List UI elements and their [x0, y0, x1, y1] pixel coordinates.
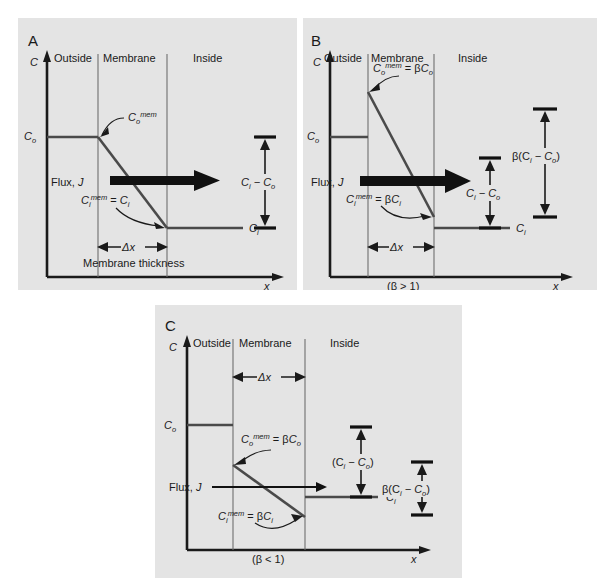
panel-b-letter: B	[311, 32, 321, 49]
co-mem-arrowhead	[369, 83, 380, 92]
flux-arrow-body	[360, 176, 446, 186]
bracket-a-arrow-down	[260, 215, 270, 226]
region-membrane-label: Membrane	[239, 337, 292, 349]
region-outside-label: Outside	[324, 52, 362, 64]
flux-label: Flux, J	[311, 176, 344, 188]
bracket-a-arrow-up	[260, 139, 270, 150]
region-inside-label: Inside	[193, 52, 222, 64]
ci-mem-leader-line	[381, 206, 425, 218]
y-axis-label: C	[169, 341, 177, 353]
ci-mem-arrowhead	[420, 213, 432, 220]
region-inside-label: Inside	[330, 337, 359, 349]
ci-mem-label: Cimem = βCi	[346, 192, 401, 208]
x-axis-arrowhead	[561, 273, 573, 281]
x-axis-label: x	[263, 280, 270, 290]
region-inside-label: Inside	[458, 52, 487, 64]
membrane-thickness-caption: Membrane thickness	[83, 257, 185, 269]
bracket-c2-arrow-down	[417, 502, 427, 513]
panel-c-letter: C	[165, 317, 176, 334]
bracket-b2-arrow-down	[540, 204, 550, 215]
flux-label: Flux, J	[169, 481, 202, 493]
x-axis-label: x	[552, 280, 559, 290]
delta-x-arrow-right	[424, 242, 435, 252]
y-axis-label: C	[30, 56, 38, 68]
panel-a-letter: A	[28, 32, 38, 49]
co-mem-label: Comem = βCo	[241, 432, 301, 448]
delta-x-label: Δx	[121, 241, 135, 253]
x-axis-arrowhead	[419, 546, 431, 554]
bracket-c2-arrow-up	[417, 464, 427, 475]
delta-x-label: Δx	[389, 241, 403, 253]
delta-x-arrow-left	[97, 242, 108, 252]
ci-mem-label: Cimem = Ci	[81, 193, 130, 209]
c-out-axis-label: Co	[307, 130, 319, 145]
y-axis-label: C	[313, 56, 321, 68]
y-axis-arrowhead	[43, 50, 51, 62]
panel-a: A C x Outside Membrane Inside Co Ci Come…	[18, 18, 297, 290]
flux-label: Flux, J	[51, 176, 84, 188]
ci-mem-label: Cimem = βCi	[218, 509, 273, 525]
flux-arrow-body	[110, 176, 196, 185]
c-out-axis-label: Co	[164, 419, 176, 434]
bracket-b1-arrow-down	[485, 215, 495, 226]
co-mem-leader-line	[243, 450, 271, 460]
y-axis-arrowhead	[183, 335, 191, 347]
bracket-c1-arrow-down	[356, 484, 366, 495]
panel-c: C C x Outside Membrane Inside Δx Co Ci C…	[155, 305, 462, 578]
delta-x-arrow-right	[157, 242, 168, 252]
region-outside-label: Outside	[193, 337, 231, 349]
flux-arrow-head	[316, 482, 327, 492]
delta-x-arrow-right	[295, 372, 306, 382]
x-axis-arrowhead	[272, 273, 284, 281]
bracket-c1-arrow-up	[356, 429, 366, 440]
delta-x-label: Δx	[257, 371, 271, 383]
delta-x-arrow-left	[367, 242, 378, 252]
c-in-label: Ci	[516, 222, 526, 237]
beta-condition-caption: (β < 1)	[252, 553, 284, 565]
delta-x-arrow-left	[232, 372, 243, 382]
panel-b: B C x Outside Membrane Inside Co Ci Come…	[303, 18, 597, 290]
beta-condition-caption: (β > 1)	[387, 280, 419, 290]
co-mem-arrowhead	[234, 457, 246, 465]
c-out-axis-label: Co	[24, 130, 36, 145]
region-outside-label: Outside	[54, 52, 92, 64]
bracket-b1-arrow-up	[485, 160, 495, 171]
co-mem-label: Comem	[128, 110, 157, 126]
x-axis-label: x	[410, 553, 417, 565]
flux-arrow-head	[194, 170, 220, 191]
region-membrane-label: Membrane	[103, 52, 156, 64]
co-mem-arrowhead	[100, 127, 109, 137]
bracket-b2-arrow-up	[540, 111, 550, 122]
